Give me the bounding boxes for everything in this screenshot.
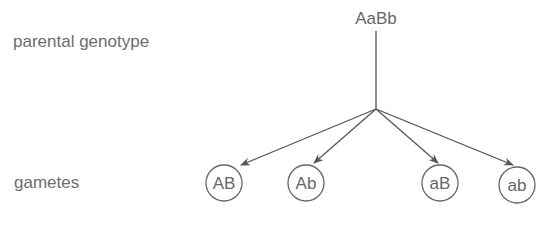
- genotype-tree-diagram: AaBb AB Ab aB ab: [0, 0, 559, 228]
- gamete-aB: aB: [422, 165, 458, 201]
- parent-genotype: AaBb: [355, 9, 397, 28]
- arrow-to-ab: [376, 109, 513, 165]
- arrow-to-Ab: [314, 109, 376, 163]
- arrow-to-aB: [376, 109, 438, 163]
- gamete-AB: AB: [206, 165, 242, 201]
- svg-text:Ab: Ab: [296, 174, 317, 193]
- gamete-Ab: Ab: [288, 165, 324, 201]
- gamete-ab: ab: [499, 167, 535, 203]
- svg-text:ab: ab: [508, 176, 527, 195]
- svg-text:AB: AB: [213, 174, 236, 193]
- arrow-to-AB: [241, 109, 376, 165]
- svg-text:aB: aB: [430, 174, 451, 193]
